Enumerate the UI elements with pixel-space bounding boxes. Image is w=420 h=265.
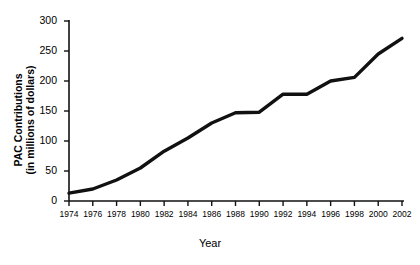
x-tick-label: 1988 xyxy=(223,209,249,219)
y-tick-label: 150 xyxy=(27,105,57,116)
x-axis-title: Year xyxy=(0,237,420,249)
x-tick-label: 1996 xyxy=(318,209,344,219)
y-tick-label: 300 xyxy=(27,15,57,26)
y-axis-title-line-2: (in millions of dollars) xyxy=(24,30,36,210)
y-tick-label: 250 xyxy=(27,45,57,56)
chart-plot-area xyxy=(0,0,420,265)
x-tick-label: 1984 xyxy=(175,209,201,219)
y-tick-label: 100 xyxy=(27,135,57,146)
y-tick-label: 200 xyxy=(27,75,57,86)
x-tick-label: 1978 xyxy=(104,209,130,219)
y-tick-label: 0 xyxy=(27,195,57,206)
x-tick-label: 1982 xyxy=(151,209,177,219)
y-axis-title: PAC Contributions (in millions of dollar… xyxy=(12,30,36,210)
x-tick-label: 1980 xyxy=(127,209,153,219)
x-tick-label: 1990 xyxy=(246,209,272,219)
y-axis-title-line-1: PAC Contributions xyxy=(12,30,24,210)
x-tick-label: 2000 xyxy=(365,209,391,219)
x-tick-label: 1976 xyxy=(80,209,106,219)
data-series-line xyxy=(69,38,402,193)
x-tick-label: 2002 xyxy=(389,209,415,219)
axes-group xyxy=(69,20,404,201)
x-tick-label: 1986 xyxy=(199,209,225,219)
x-tick-label: 1998 xyxy=(341,209,367,219)
x-tick-label: 1974 xyxy=(56,209,82,219)
pac-contributions-line-chart: PAC Contributions (in millions of dollar… xyxy=(0,0,420,265)
x-tick-label: 1994 xyxy=(294,209,320,219)
y-tick-label: 50 xyxy=(27,165,57,176)
x-tick-label: 1992 xyxy=(270,209,296,219)
